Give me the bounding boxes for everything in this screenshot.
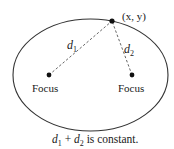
right-focus-dot [130,73,135,78]
distance-label-d1: d1 [67,39,77,51]
point-on-ellipse-dot [109,18,114,23]
left-focus-label: Focus [32,83,58,94]
point-label: (x, y) [122,11,146,22]
caption-plus: + [62,133,74,145]
distance-label-d2: d2 [124,43,134,55]
ellipse-diagram: (x, y) d1 d2 Focus Focus d1 + d2 is cons… [0,0,174,149]
ellipse-figure [0,0,174,149]
left-focus-dot [47,73,52,78]
distance-line-d1 [49,21,112,75]
ellipse-curve [13,19,168,131]
right-focus-label: Focus [118,83,144,94]
d2-sub: 2 [130,49,134,58]
caption: d1 + d2 is constant. [52,134,138,146]
d1-sub: 1 [73,45,77,54]
caption-text: is constant. [84,133,139,145]
